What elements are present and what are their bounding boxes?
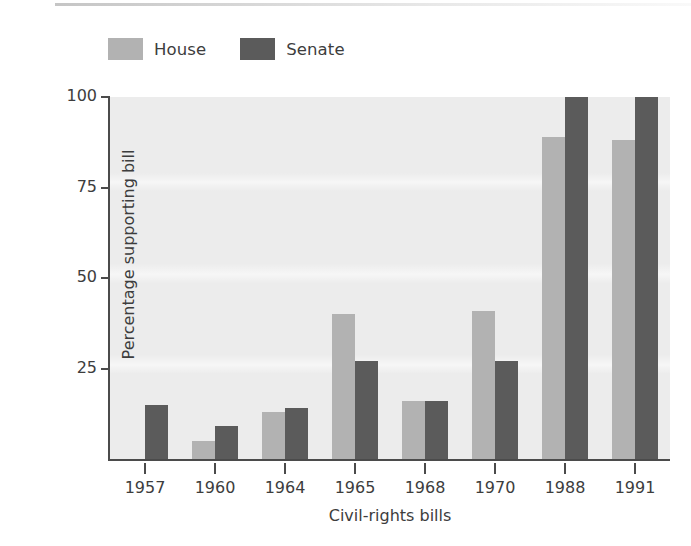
x-tick-mark xyxy=(494,463,496,474)
legend-entry-house: House xyxy=(108,38,206,60)
bar-house-1960 xyxy=(192,441,215,459)
y-tick-label: 75 xyxy=(77,177,97,196)
legend-entry-senate: Senate xyxy=(240,38,344,60)
scan-artifact-strip xyxy=(55,3,691,6)
legend-label-senate: Senate xyxy=(286,40,344,59)
x-tick-label: 1968 xyxy=(385,478,465,497)
y-tick-mark xyxy=(101,277,110,279)
y-tick-mark xyxy=(101,96,110,98)
bar-senate-1970 xyxy=(495,361,518,459)
bar-senate-1965 xyxy=(355,361,378,459)
bar-senate-1968 xyxy=(425,401,448,459)
x-tick-mark xyxy=(354,463,356,474)
x-tick-mark xyxy=(144,463,146,474)
bar-senate-1957 xyxy=(145,405,168,459)
x-tick-mark xyxy=(214,463,216,474)
bar-senate-1991 xyxy=(635,97,658,459)
y-tick-mark xyxy=(101,368,110,370)
x-tick-label: 1957 xyxy=(105,478,185,497)
bar-house-1964 xyxy=(262,412,285,459)
bar-house-1965 xyxy=(332,314,355,459)
y-axis-title: Percentage supporting bill xyxy=(119,105,138,405)
senate-swatch xyxy=(240,38,275,60)
bar-senate-1988 xyxy=(565,97,588,459)
x-tick-label: 1991 xyxy=(595,478,675,497)
x-tick-label: 1988 xyxy=(525,478,605,497)
y-tick-mark xyxy=(101,187,110,189)
y-tick-label: 100 xyxy=(66,86,97,105)
bar-house-1988 xyxy=(542,137,565,459)
x-tick-mark xyxy=(284,463,286,474)
legend-label-house: House xyxy=(154,40,206,59)
bar-house-1970 xyxy=(472,311,495,459)
x-tick-mark xyxy=(564,463,566,474)
house-swatch xyxy=(108,38,143,60)
x-tick-mark xyxy=(634,463,636,474)
bar-house-1968 xyxy=(402,401,425,459)
bar-senate-1960 xyxy=(215,426,238,459)
x-tick-label: 1964 xyxy=(245,478,325,497)
x-tick-label: 1960 xyxy=(175,478,255,497)
x-tick-mark xyxy=(424,463,426,474)
bar-house-1991 xyxy=(612,140,635,459)
x-axis-title: Civil-rights bills xyxy=(110,506,670,525)
y-tick-label: 50 xyxy=(77,267,97,286)
chart-legend: House Senate xyxy=(108,38,345,60)
x-tick-label: 1970 xyxy=(455,478,535,497)
y-tick-label: 25 xyxy=(77,358,97,377)
bar-senate-1964 xyxy=(285,408,308,459)
plot-area: Percentage supporting bill 255075100 195… xyxy=(108,97,670,461)
x-tick-label: 1965 xyxy=(315,478,395,497)
